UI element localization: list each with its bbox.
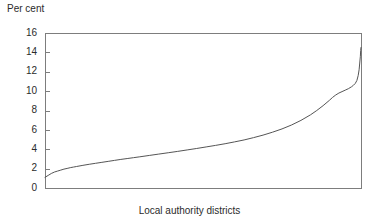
plot-frame [46, 34, 362, 189]
y-axis-tick-label: 16 [26, 27, 38, 38]
chart-figure: Per cent 0246810121416 Local authority d… [0, 0, 379, 224]
y-axis-tick-label: 0 [31, 182, 37, 193]
y-axis-tick-label: 2 [31, 162, 37, 173]
data-series-line [45, 48, 361, 178]
y-axis-tick-label: 10 [26, 85, 38, 96]
line-chart-plot: 0246810121416 [0, 0, 379, 224]
y-axis-tick-label: 4 [31, 143, 37, 154]
y-axis-tick-label: 6 [31, 124, 37, 135]
y-axis-tick-label: 8 [31, 104, 37, 115]
y-axis-tick-labels: 0246810121416 [26, 27, 38, 193]
x-axis-label: Local authority districts [0, 205, 379, 217]
y-axis-tick-marks [46, 53, 50, 170]
y-axis-tick-label: 12 [26, 65, 38, 76]
y-axis-tick-label: 14 [26, 46, 38, 57]
